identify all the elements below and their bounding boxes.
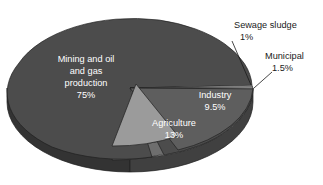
slice-label-mining-line3: production (65, 78, 108, 88)
slice-label-agriculture-value: 13% (165, 130, 183, 140)
callout-label-municipal-name: Municipal (265, 51, 304, 61)
callout-label-sewage-sludge-name: Sewage sludge (234, 20, 297, 30)
slice-label-agriculture-name: Agriculture (152, 118, 196, 128)
slice-label-mining-line1: Mining and oil (58, 54, 115, 64)
slice-label-mining-line2: and gas (70, 66, 103, 76)
slice-label-mining-value: 75% (77, 90, 95, 100)
slice-label-industry-value: 9.5% (205, 102, 226, 112)
callout-label-sewage-sludge-value: 1% (240, 32, 253, 42)
callout-label-municipal-value: 1.5% (272, 63, 293, 73)
leader-line-municipal (254, 72, 272, 88)
slice-label-industry-name: Industry (199, 90, 232, 100)
pie-chart-svg: Mining and oil and gas production 75% In… (0, 0, 323, 185)
pie-top-faces (7, 18, 253, 159)
pie-chart-figure: Mining and oil and gas production 75% In… (0, 0, 323, 185)
